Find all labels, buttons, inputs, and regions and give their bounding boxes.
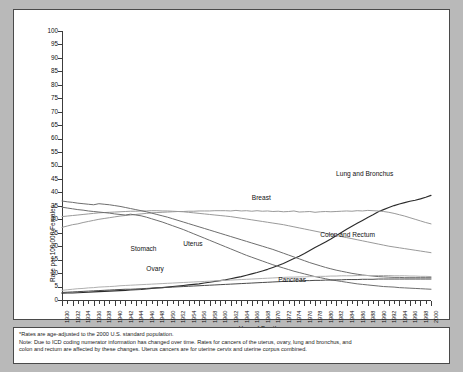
x-axis-major-tick	[125, 301, 126, 306]
x-axis-tick-label: 1954	[191, 311, 197, 323]
x-axis-tick-label: 1932	[75, 311, 81, 323]
x-axis-tick-label: 1952	[180, 311, 186, 323]
x-axis-tick-label: 1950	[170, 311, 176, 323]
x-axis-tick-label: 1968	[265, 311, 271, 323]
x-axis-major-tick	[178, 301, 179, 306]
x-axis-tick-label: 1992	[391, 311, 397, 323]
x-axis-minor-tick	[426, 301, 427, 304]
x-axis-tick-label: 2000	[433, 311, 439, 323]
x-axis-minor-tick	[247, 301, 248, 304]
y-axis-tick-label: 5	[18, 283, 58, 289]
x-axis-tick-label: 1942	[128, 311, 134, 323]
series-label-lung-and-bronchus: Lung and Bronchus	[336, 170, 393, 177]
x-axis-major-tick	[210, 301, 211, 306]
y-axis-tick-label: 100	[18, 28, 58, 34]
y-axis-tick-label: 20	[18, 243, 58, 249]
y-axis-tick-label: 55	[18, 149, 58, 155]
x-axis-major-tick	[189, 301, 190, 306]
footnote-panel: *Rates are age-adjusted to the 2000 U.S.…	[13, 327, 450, 364]
series-label-stomach: Stomach	[131, 245, 157, 252]
x-axis-minor-tick	[373, 301, 374, 304]
x-axis-tick-label: 1938	[106, 311, 112, 323]
x-axis-minor-tick	[257, 301, 258, 304]
y-axis-tick-label: 25	[18, 230, 58, 236]
x-axis-minor-tick	[278, 301, 279, 304]
x-axis-tick-label: 1998	[423, 311, 429, 323]
series-label-breast: Breast	[252, 194, 271, 201]
x-axis-major-tick	[167, 301, 168, 306]
series-lines	[62, 31, 431, 300]
x-axis-minor-tick	[299, 301, 300, 304]
x-axis-tick-label: 1974	[296, 311, 302, 323]
x-axis-major-tick	[199, 301, 200, 306]
x-axis-major-tick	[252, 301, 253, 306]
x-axis-major-tick	[336, 301, 337, 306]
x-axis-tick-label: 1978	[317, 311, 323, 323]
x-axis-major-tick	[157, 301, 158, 306]
footnote-line-2: Note: Due to ICD coding numerator inform…	[19, 339, 444, 347]
x-axis-major-tick	[368, 301, 369, 306]
y-axis-tick-label: 85	[18, 68, 58, 74]
x-axis-major-tick	[399, 301, 400, 306]
x-axis-major-tick	[136, 301, 137, 306]
x-axis-tick-label: 1970	[275, 311, 281, 323]
x-axis-major-tick	[231, 301, 232, 306]
x-axis-minor-tick	[152, 301, 153, 304]
x-axis-minor-tick	[99, 301, 100, 304]
x-axis-minor-tick	[352, 301, 353, 304]
x-axis-minor-tick	[320, 301, 321, 304]
y-axis-tick-label: 65	[18, 122, 58, 128]
x-axis-tick-label: 1936	[96, 311, 102, 323]
x-axis-major-tick	[420, 301, 421, 306]
x-axis-major-tick	[315, 301, 316, 306]
series-line-colon-and-rectum	[62, 211, 431, 253]
x-axis-tick-label: 1982	[338, 311, 344, 323]
x-axis-tick-label: 1960	[222, 311, 228, 323]
x-axis-tick-label: 1986	[360, 311, 366, 323]
y-axis-tick-label: 90	[18, 55, 58, 61]
x-axis-tick-label: 1940	[117, 311, 123, 323]
x-axis-minor-tick	[362, 301, 363, 304]
x-axis-major-tick	[410, 301, 411, 306]
chart-screenshot: Rate per 100,000 Females 051015202530354…	[0, 0, 463, 372]
x-axis-tick-label: 1972	[286, 311, 292, 323]
y-axis-tick-label: 0	[18, 297, 58, 303]
x-axis-tick-label: 1944	[138, 311, 144, 323]
x-axis-minor-tick	[215, 301, 216, 304]
x-axis-major-tick	[389, 301, 390, 306]
series-label-colon-and-rectum: Colon and Rectum	[320, 231, 375, 238]
series-label-ovary: Ovary	[146, 265, 164, 272]
x-axis-major-tick	[262, 301, 263, 306]
x-axis-minor-tick	[141, 301, 142, 304]
x-axis-tick-label: 1984	[349, 311, 355, 323]
x-axis-minor-tick	[394, 301, 395, 304]
x-axis-minor-tick	[225, 301, 226, 304]
x-axis-major-tick	[294, 301, 295, 306]
x-axis-tick-label: 1966	[254, 311, 260, 323]
series-line-uterus	[62, 201, 431, 278]
series-line-lung-and-bronchus	[62, 195, 431, 293]
x-axis-tick-label: 1946	[149, 311, 155, 323]
x-axis-major-tick	[347, 301, 348, 306]
y-axis-tick-label: 80	[18, 82, 58, 88]
x-axis-minor-tick	[109, 301, 110, 304]
x-axis-tick-label: 1962	[233, 311, 239, 323]
x-axis-minor-tick	[131, 301, 132, 304]
x-axis-minor-tick	[88, 301, 89, 304]
plot-area	[62, 31, 431, 300]
x-axis-minor-tick	[183, 301, 184, 304]
x-axis-major-tick	[73, 301, 74, 306]
y-axis-tick-label: 60	[18, 135, 58, 141]
x-axis-minor-tick	[331, 301, 332, 304]
series-label-pancreas: Pancreas	[278, 276, 306, 283]
x-axis-tick-label: 1980	[328, 311, 334, 323]
x-axis-minor-tick	[204, 301, 205, 304]
x-axis-minor-tick	[173, 301, 174, 304]
x-axis-major-tick	[431, 301, 432, 306]
x-axis-minor-tick	[268, 301, 269, 304]
x-axis-major-tick	[241, 301, 242, 306]
x-axis-minor-tick	[405, 301, 406, 304]
x-axis-major-tick	[326, 301, 327, 306]
x-axis-major-tick	[378, 301, 379, 306]
footnote-line-1: *Rates are age-adjusted to the 2000 U.S.…	[19, 331, 444, 339]
